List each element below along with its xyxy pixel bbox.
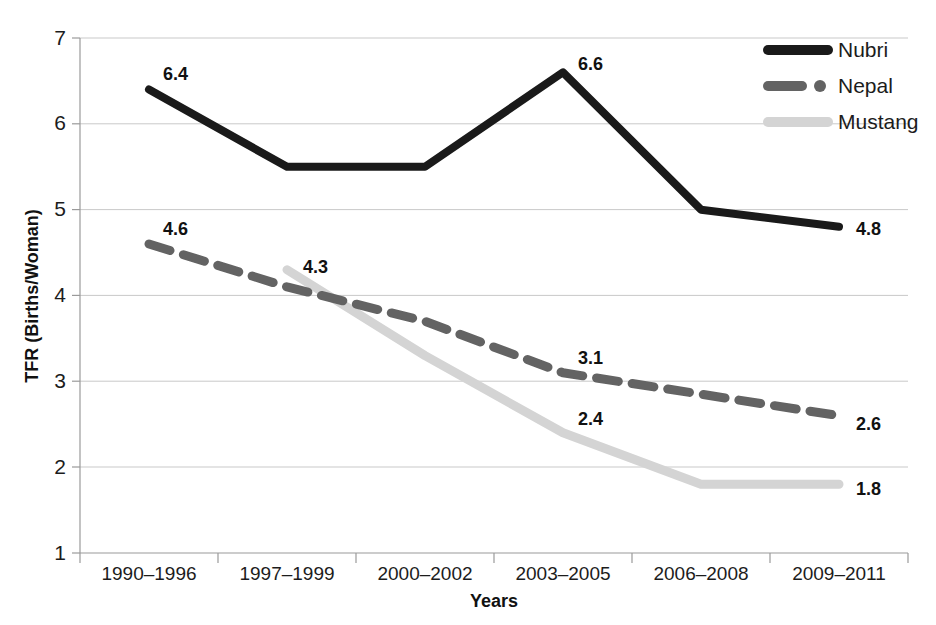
x-tick-label-2: 2000–2002 <box>377 563 472 584</box>
y-tick-label-1: 1 <box>54 541 66 564</box>
chart-canvas: 7 6 5 4 3 2 1 1990–1996 1997–1999 2000–2… <box>0 0 936 625</box>
legend-label-mustang: Mustang <box>838 110 919 133</box>
y-tick-label-7: 7 <box>54 26 66 49</box>
label-nubri-peak: 6.6 <box>578 54 603 74</box>
legend-label-nubri: Nubri <box>838 38 888 61</box>
label-nepal-last: 2.6 <box>856 414 881 434</box>
x-tick-label-5: 2009–2011 <box>792 563 886 584</box>
legend-marker-nepal <box>814 80 826 92</box>
label-nubri-first: 6.4 <box>163 64 188 84</box>
label-mustang-first: 4.3 <box>303 257 328 277</box>
y-tick-label-6: 6 <box>54 111 66 134</box>
x-tick-label-3: 2003–2005 <box>515 563 610 584</box>
label-nepal-mid: 3.1 <box>578 348 603 368</box>
legend-label-nepal: Nepal <box>838 74 893 97</box>
label-nepal-first: 4.6 <box>163 219 188 239</box>
x-tick-label-4: 2006–2008 <box>653 563 748 584</box>
x-tick-label-0: 1990–1996 <box>101 563 196 584</box>
y-tick-label-4: 4 <box>54 283 66 306</box>
label-mustang-mid: 2.4 <box>578 409 603 429</box>
y-tick-label-5: 5 <box>54 197 66 220</box>
chart-background <box>0 0 936 625</box>
x-axis-title: Years <box>470 591 518 611</box>
label-nubri-last: 4.8 <box>856 219 881 239</box>
y-tick-label-2: 2 <box>54 455 66 478</box>
x-tick-label-1: 1997–1999 <box>239 563 334 584</box>
y-tick-label-3: 3 <box>54 369 66 392</box>
label-mustang-last: 1.8 <box>856 479 881 499</box>
tfr-line-chart: 7 6 5 4 3 2 1 1990–1996 1997–1999 2000–2… <box>0 0 936 625</box>
y-axis-title: TFR (Births/Woman) <box>22 209 42 383</box>
